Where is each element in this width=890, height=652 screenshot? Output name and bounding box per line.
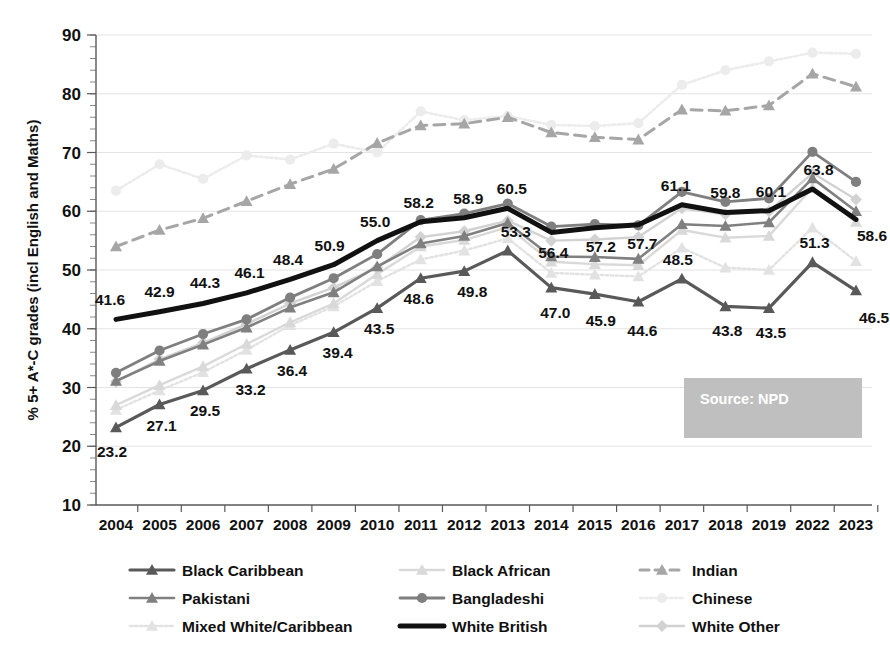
data-point-marker (590, 121, 600, 131)
data-value-label: 55.0 (360, 213, 390, 230)
data-value-label: 56.4 (538, 244, 569, 261)
legend-label: Black Caribbean (182, 562, 303, 579)
data-value-label: 57.7 (627, 235, 657, 252)
data-point-marker (241, 150, 251, 160)
data-point-marker (110, 399, 122, 410)
line-chart: 102030405060708090 200420052006200720082… (0, 0, 890, 652)
data-point-marker (850, 194, 862, 206)
data-point-marker (807, 48, 817, 58)
data-value-label: 43.8 (712, 322, 743, 339)
data-point-marker (416, 106, 426, 116)
legend-label: Chinese (692, 590, 753, 607)
legend-item-mixed-white-caribbean[interactable]: Mixed White/Caribbean (130, 618, 353, 635)
data-point-marker (154, 345, 164, 355)
legend-item-black-african[interactable]: Black African (400, 562, 551, 579)
data-point-marker (806, 222, 818, 233)
data-value-label: 42.9 (144, 283, 175, 300)
data-value-label: 60.5 (497, 180, 528, 197)
data-value-label: 53.3 (501, 223, 532, 240)
x-tick-label: 2004 (99, 516, 134, 533)
legend-label: White British (452, 618, 548, 635)
legend-item-indian[interactable]: Indian (640, 562, 738, 579)
data-point-marker (241, 314, 251, 324)
data-value-label: 59.8 (710, 184, 741, 201)
data-point-marker (111, 186, 121, 196)
y-tick-label: 30 (62, 379, 81, 398)
legend-item-chinese[interactable]: Chinese (640, 590, 753, 607)
y-tick-label: 60 (62, 202, 81, 221)
legend-item-white-other[interactable]: White Other (640, 618, 780, 635)
data-value-label: 57.2 (586, 238, 616, 255)
data-value-label: 58.6 (857, 227, 888, 244)
data-point-marker (154, 159, 164, 169)
x-tick-label: 2013 (491, 516, 526, 533)
series-line (116, 53, 856, 191)
data-value-label: 43.5 (756, 324, 787, 341)
legend-item-white-british[interactable]: White British (400, 618, 548, 635)
data-value-label: 45.9 (586, 312, 617, 329)
data-value-label: 48.6 (404, 290, 435, 307)
series-chinese (111, 48, 861, 196)
y-tick-label: 50 (62, 261, 81, 280)
x-tick-label: 2011 (404, 516, 438, 533)
data-value-label: 47.0 (540, 304, 570, 321)
data-point-marker (111, 368, 121, 378)
series-lines (110, 48, 862, 433)
data-point-marker (633, 118, 643, 128)
source-box-label: Source: NPD (700, 391, 789, 407)
data-point-marker (241, 338, 253, 349)
data-value-label: 58.2 (404, 194, 434, 211)
data-value-label: 50.9 (315, 237, 346, 254)
x-tick-label: 2018 (708, 516, 743, 533)
data-point-marker (371, 137, 383, 148)
legend-label: Black African (452, 562, 551, 579)
data-point-marker (851, 49, 861, 59)
data-point-marker (329, 273, 339, 283)
data-point-marker (807, 147, 817, 157)
data-value-label: 46.5 (859, 309, 890, 326)
data-value-label: 58.9 (453, 190, 484, 207)
y-axis-title: % 5+ A*-C grades (incl English and Maths… (24, 120, 41, 421)
data-point-marker (372, 147, 382, 157)
x-tick-label: 2009 (316, 516, 351, 533)
data-point-marker (806, 256, 818, 267)
data-point-marker (241, 195, 253, 206)
y-tick-labels: 102030405060708090 (62, 26, 81, 515)
data-value-label: 29.5 (190, 402, 221, 419)
legend-item-bangladeshi[interactable]: Bangladeshi (400, 590, 544, 607)
data-point-marker (657, 593, 667, 603)
y-tick-label: 20 (62, 437, 81, 456)
data-point-marker (329, 139, 339, 149)
legend-item-black-caribbean[interactable]: Black Caribbean (130, 562, 303, 579)
data-point-marker (417, 593, 427, 603)
data-value-label: 48.5 (663, 251, 694, 268)
y-tick-label: 90 (62, 26, 81, 45)
data-point-marker (676, 273, 688, 284)
y-tick-label: 10 (62, 496, 81, 515)
data-value-label: 44.6 (627, 322, 658, 339)
source-annotation: Source: NPD (684, 378, 862, 438)
data-value-label: 46.1 (235, 264, 266, 281)
data-value-label: 44.3 (190, 274, 221, 291)
data-point-marker (458, 245, 470, 256)
source-box-background (684, 378, 862, 438)
legend-label: Mixed White/Caribbean (182, 618, 353, 635)
data-value-label: 43.5 (364, 320, 395, 337)
y-tick-label: 70 (62, 144, 81, 163)
data-value-label: 39.4 (323, 344, 354, 361)
data-point-marker (372, 249, 382, 259)
data-point-marker (502, 245, 514, 256)
series-line (116, 74, 856, 247)
legend-label: Indian (692, 562, 738, 579)
data-point-marker (764, 56, 774, 66)
data-point-marker (328, 163, 340, 174)
legend-label: Pakistani (182, 590, 250, 607)
x-tick-label: 2012 (447, 516, 481, 533)
chart-legend: Black CaribbeanBlack AfricanIndianPakist… (130, 562, 780, 635)
data-value-label: 63.8 (803, 161, 834, 178)
x-tick-label: 2019 (752, 516, 787, 533)
series-pakistani (110, 172, 862, 385)
chart-container: 102030405060708090 200420052006200720082… (0, 0, 890, 652)
data-value-label: 23.2 (97, 443, 127, 460)
legend-item-pakistani[interactable]: Pakistani (130, 590, 250, 607)
